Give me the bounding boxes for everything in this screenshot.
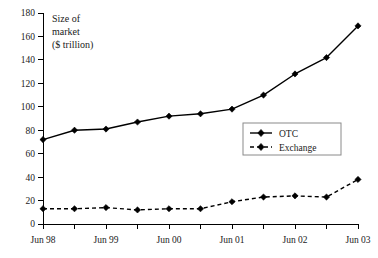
data-point: [229, 106, 235, 112]
legend-label-otc: OTC: [279, 129, 298, 139]
data-point: [71, 206, 77, 212]
data-point: [134, 207, 140, 213]
y-tick-label: 20: [26, 196, 36, 206]
axis-title-line-3: ($ trillion): [52, 39, 93, 51]
data-point: [197, 206, 203, 212]
data-point: [134, 119, 140, 125]
data-point: [323, 194, 329, 200]
y-tick-label: 160: [21, 32, 36, 42]
data-point: [40, 206, 46, 212]
data-point: [166, 113, 172, 119]
y-tick-group: [38, 13, 43, 224]
y-tick-label: 60: [26, 149, 36, 159]
data-point: [40, 137, 46, 143]
x-axis-group: Jun 98Jun 99Jun 00Jun 01Jun 02Jun 03: [30, 224, 370, 245]
x-tick-label: Jun 03: [345, 235, 370, 245]
x-tick-label-group: Jun 98Jun 99Jun 00Jun 01Jun 02Jun 03: [30, 235, 370, 245]
axis-title-line-2: market: [52, 26, 80, 37]
x-tick-label: Jun 02: [282, 235, 307, 245]
data-point: [355, 176, 361, 182]
x-tick-label: Jun 00: [156, 235, 181, 245]
y-tick-label: 0: [30, 219, 35, 229]
data-point: [197, 111, 203, 117]
x-tick-label: Jun 01: [219, 235, 244, 245]
legend-label-exchange: Exchange: [279, 143, 316, 153]
y-tick-label: 80: [26, 126, 36, 136]
chart-container: 020406080100120140160180 Jun 98Jun 99Jun…: [0, 0, 378, 258]
x-tick-label: Jun 98: [30, 235, 55, 245]
y-tick-label: 180: [21, 8, 36, 18]
data-point: [292, 193, 298, 199]
series-group: [40, 23, 361, 213]
y-axis-group: 020406080100120140160180: [21, 8, 43, 229]
x-tick-label: Jun 99: [93, 235, 118, 245]
series-exchange: [40, 176, 361, 213]
axis-title-line-1: Size of: [52, 13, 81, 24]
y-tick-label-group: 020406080100120140160180: [21, 8, 36, 229]
line-chart: 020406080100120140160180 Jun 98Jun 99Jun…: [0, 0, 378, 258]
data-point: [71, 127, 77, 133]
data-point: [103, 204, 109, 210]
data-point: [229, 199, 235, 205]
x-tick-group: [43, 224, 358, 229]
data-point: [166, 206, 172, 212]
y-tick-label: 40: [26, 173, 36, 183]
data-point: [103, 126, 109, 132]
y-tick-label: 120: [21, 79, 36, 89]
y-tick-label: 100: [21, 102, 36, 112]
data-point: [260, 194, 266, 200]
axis-title-group: Size of market ($ trillion): [52, 13, 93, 51]
legend: OTC Exchange: [243, 123, 341, 155]
y-tick-label: 140: [21, 55, 36, 65]
